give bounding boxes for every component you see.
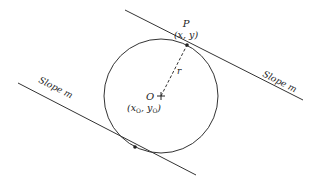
tangent-diagram: P (x, y) r O (xO, yO) Slope m Slope m [0, 0, 319, 191]
upper-tangent-line [125, 10, 303, 100]
center-coords: (xO, yO) [127, 102, 161, 114]
point-p-label: P [182, 18, 190, 29]
point-p-coords: (x, y) [174, 29, 198, 40]
center-label: O [146, 91, 154, 102]
point-p-dot [185, 43, 189, 47]
lower-tangent-line [18, 83, 196, 175]
radius-line [161, 45, 187, 96]
lower-slope-label: Slope m [37, 75, 74, 101]
radius-label: r [177, 66, 182, 76]
lower-tangent-point-dot [133, 145, 137, 149]
center-cross-icon [157, 92, 165, 100]
